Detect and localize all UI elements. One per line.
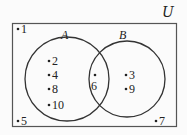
element-dot xyxy=(48,104,51,107)
set-b-label: B xyxy=(119,28,127,42)
element-dot xyxy=(125,88,128,91)
element-10: 10 xyxy=(52,98,64,112)
element-9: 9 xyxy=(129,82,135,96)
element-dot xyxy=(48,88,51,91)
element-dot xyxy=(48,74,51,77)
element-dot xyxy=(17,120,20,123)
venn-diagram: U A B 1 5 7 2 4 8 10 6 3 9 xyxy=(0,0,187,135)
element-4: 4 xyxy=(52,68,58,82)
universe-label: U xyxy=(162,4,175,20)
element-7: 7 xyxy=(159,114,165,128)
set-a-label: A xyxy=(60,28,69,42)
element-2: 2 xyxy=(52,54,58,68)
element-3: 3 xyxy=(129,68,135,82)
element-dot xyxy=(125,74,128,77)
set-b-circle xyxy=(89,41,165,117)
element-6: 6 xyxy=(91,79,97,93)
element-dot xyxy=(48,60,51,63)
element-1: 1 xyxy=(21,22,27,36)
element-dot xyxy=(155,120,158,123)
element-dot xyxy=(17,28,20,31)
element-dot xyxy=(94,74,97,77)
element-5: 5 xyxy=(21,114,27,128)
element-8: 8 xyxy=(52,82,58,96)
